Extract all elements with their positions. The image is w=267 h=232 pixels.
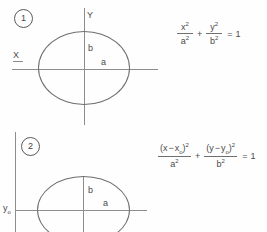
figure-2-y-offset-subscript: o [8, 209, 11, 215]
figure-2-term-1-denominator: a2 [168, 157, 180, 169]
figure-2-term-1-variable: x [163, 143, 168, 153]
figure-1-term-2-num-exponent: 2 [215, 21, 218, 27]
figure-2: 2 yo b a (x−xo)2 a2 + (y−yo)2 b2 [0, 128, 267, 232]
figure-2-number-badge: 2 [21, 137, 40, 156]
figure-2-semi-minor-label: b [88, 186, 93, 195]
figure-2-term-2-variable: y [209, 143, 214, 153]
figure-sheet: 1 Y X b a x2 a2 + y2 b2 [0, 0, 267, 232]
figure-2-equation-rhs: 1 [250, 151, 255, 161]
figure-2-term-1-den-exponent: 2 [175, 158, 178, 164]
figure-2-equation: (x−xo)2 a2 + (y−yo)2 b2 = 1 [157, 142, 255, 170]
figure-2-term-1-numerator: (x−xo)2 [158, 142, 191, 156]
figure-1-term-1-fraction: x2 a2 [177, 21, 193, 47]
figure-2-term-2-den-exponent: 2 [222, 158, 225, 164]
figure-2-number-label: 2 [28, 142, 33, 151]
figure-2-term-2-numerator: (y−yo)2 [204, 142, 237, 156]
figure-2-term-2-denominator: b2 [215, 157, 227, 169]
figure-1-ellipse [38, 31, 130, 105]
figure-1-equation-operator: + [197, 29, 202, 39]
figure-2-semi-major-label: a [103, 199, 108, 208]
figure-1-semi-major-label: a [101, 58, 106, 67]
figure-1-equation-rhs: 1 [236, 29, 241, 39]
figure-1-term-1-num-exponent: 2 [186, 21, 189, 27]
figure-1-y-axis-label: Y [87, 11, 93, 20]
figure-2-term-2-fraction: (y−yo)2 b2 [204, 142, 237, 170]
figure-1-equation: x2 a2 + y2 b2 = 1 [176, 21, 241, 47]
figure-1-number-label: 1 [21, 14, 26, 23]
figure-2-equation-equals: = [242, 151, 247, 161]
figure-1-term-2-denominator: b2 [208, 34, 220, 46]
figure-2-ellipse [37, 176, 130, 232]
figure-2-term-1-num-exponent: 2 [186, 142, 189, 148]
figure-1-term-1-numerator: x2 [179, 21, 191, 33]
figure-1-term-1-denominator: a2 [179, 34, 191, 46]
figure-1-term-2-fraction: y2 b2 [206, 21, 222, 47]
figure-1-term-2-numerator: y2 [208, 21, 220, 33]
figure-2-equation-operator: + [195, 151, 200, 161]
figure-2-y-axis [15, 132, 16, 232]
figure-1-number-badge: 1 [14, 9, 33, 28]
figure-1-equation-equals: = [227, 29, 232, 39]
figure-1-semi-minor-label: b [88, 44, 93, 53]
figure-1: 1 Y X b a x2 a2 + y2 b2 [0, 0, 267, 128]
figure-1-term-2-den-exponent: 2 [215, 35, 218, 41]
figure-2-term-2-minus: − [215, 143, 220, 153]
figure-1-x-axis-label: X [13, 51, 23, 62]
figure-2-term-1-minus: − [169, 143, 174, 153]
figure-2-term-2-num-exponent: 2 [232, 142, 235, 148]
figure-1-term-1-den-exponent: 2 [186, 35, 189, 41]
figure-2-term-1-fraction: (x−xo)2 a2 [158, 142, 191, 170]
figure-2-y-offset-label: yo [3, 204, 11, 215]
